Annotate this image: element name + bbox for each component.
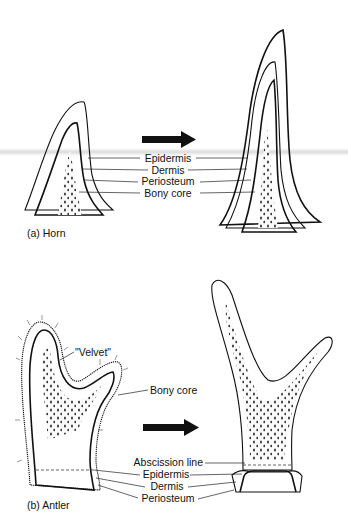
horn-label-epidermis: Epidermis (145, 152, 192, 164)
antler-label-epidermis: Epidermis (143, 468, 190, 480)
horn-arrow-icon (142, 131, 196, 148)
large-horn-illustration (220, 30, 320, 232)
small-horn-illustration (25, 102, 113, 215)
horn-label-bony-core: Bony core (144, 187, 191, 199)
antler-label-bony-core: Bony core (150, 384, 197, 396)
horn-labels: Epidermis Dermis Periosteum Bony core (79, 152, 255, 199)
antler-caption: (b) Antler (27, 499, 70, 511)
antler-label-dermis: Dermis (150, 480, 183, 492)
antler-arrow-icon (143, 419, 199, 436)
antler-label-abscission-line: Abscission line (134, 456, 204, 468)
horn-label-dermis: Dermis (151, 164, 184, 176)
horn-caption: (a) Horn (27, 227, 66, 239)
antler-label-periosteum: Periosteum (141, 492, 194, 504)
antler-label-velvet: "Velvet" (75, 346, 111, 358)
horn-label-periosteum: Periosteum (141, 175, 194, 187)
mature-antler-illustration (212, 280, 332, 492)
velvet-antler-illustration (15, 315, 128, 490)
horn-antler-diagram: Epidermis Dermis Periosteum Bony core (a… (0, 0, 348, 527)
antler-labels: Abscission line Epidermis Dermis Periost… (94, 456, 245, 504)
